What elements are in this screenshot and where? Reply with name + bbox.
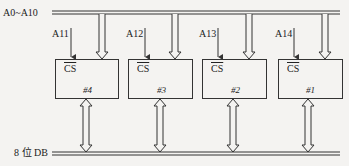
chip-select-label-a11: A11 <box>52 29 69 39</box>
chip-1-cs-label: CS <box>287 64 299 74</box>
chip-boxes <box>56 60 343 99</box>
chip-4-cs-label: CS <box>64 64 76 74</box>
chip-1-id: #1 <box>306 86 315 95</box>
chip-2-id: #2 <box>231 86 240 95</box>
chip-select-label-a13: A13 <box>199 29 216 39</box>
chip-3-id: #3 <box>157 86 166 95</box>
data-bus-label: 8 位 DB <box>14 148 48 158</box>
address-bus-label: A0~A10 <box>3 8 38 18</box>
chip-select-label-a12: A12 <box>126 29 143 39</box>
chip-select-label-a14: A14 <box>275 29 292 39</box>
address-bus <box>52 11 340 14</box>
chip-2-cs-label: CS <box>211 64 223 74</box>
chip-4-id: #4 <box>83 86 92 95</box>
data-branches <box>80 99 314 152</box>
chip-3-cs-label: CS <box>137 64 149 74</box>
data-bus <box>52 152 340 155</box>
memory-expansion-diagram <box>0 0 349 166</box>
